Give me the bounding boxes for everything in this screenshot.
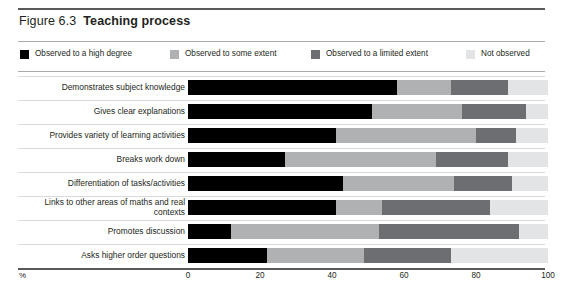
bar-segment (382, 200, 490, 215)
bar-segment (512, 176, 548, 191)
bar-segment (336, 200, 383, 215)
bar-segment (285, 152, 436, 167)
legend-label: Not observed (481, 49, 530, 59)
bar-segment (188, 80, 397, 95)
legend-item-2[interactable]: Observed to a limited extent (311, 49, 428, 59)
bar-segment (526, 104, 548, 119)
legend-item-3[interactable]: Not observed (466, 49, 530, 59)
chart-row: Differentiation of tasks/activities (0, 172, 563, 196)
bar-segment (476, 128, 516, 143)
category-label: Asks higher order questions (22, 244, 188, 268)
axis-unit-label: % (19, 271, 26, 280)
stacked-bar (188, 224, 548, 239)
bar-segment (462, 104, 527, 119)
chart-row: Demonstrates subject knowledge (0, 76, 563, 100)
category-label: Promotes discussion (22, 220, 188, 244)
figure-number: Figure 6.3 (19, 14, 76, 28)
bar-segment (188, 152, 285, 167)
stacked-bar (188, 176, 548, 191)
x-axis-tick-label: 100 (541, 271, 555, 280)
stacked-bar (188, 200, 548, 215)
x-axis-tick-label: 0 (186, 271, 191, 280)
legend-label: Observed to a high degree (35, 49, 132, 59)
legend-bottom-divider (18, 71, 545, 72)
bar-segment (188, 200, 336, 215)
bar-segment (188, 248, 267, 263)
bar-segment (188, 104, 372, 119)
x-axis-tick-label: 80 (471, 271, 480, 280)
chart-row: Provides variety of learning activities (0, 124, 563, 148)
bar-segment (451, 80, 509, 95)
chart-legend: Observed to a high degreeObserved to som… (20, 49, 547, 65)
stacked-bar (188, 80, 548, 95)
bar-segment (343, 176, 455, 191)
page-title: Figure 6.3Teaching process (19, 14, 190, 28)
legend-swatch-icon (466, 50, 475, 59)
top-divider (18, 8, 545, 10)
category-label: Links to other areas of maths and real c… (22, 196, 188, 220)
category-label: Differentiation of tasks/activities (22, 172, 188, 196)
stacked-bar (188, 104, 548, 119)
figure-title: Teaching process (83, 14, 190, 28)
bar-segment (231, 224, 379, 239)
category-label: Gives clear explanations (22, 100, 188, 124)
x-axis-tick-label: 40 (327, 271, 336, 280)
legend-label: Observed to some extent (185, 49, 276, 59)
legend-swatch-icon (20, 50, 29, 59)
bar-segment (516, 128, 548, 143)
bar-segment (372, 104, 462, 119)
legend-swatch-icon (170, 50, 179, 59)
bar-segment (379, 224, 519, 239)
chart-row: Gives clear explanations (0, 100, 563, 124)
bar-segment (508, 80, 548, 95)
chart-row: Asks higher order questions (0, 244, 563, 268)
bar-segment (267, 248, 364, 263)
stacked-bar (188, 248, 548, 263)
bar-segment (188, 176, 343, 191)
bar-segment (436, 152, 508, 167)
stacked-bar (188, 152, 548, 167)
bar-segment (397, 80, 451, 95)
bar-segment (364, 248, 450, 263)
legend-item-1[interactable]: Observed to some extent (170, 49, 276, 59)
category-label: Provides variety of learning activities (22, 124, 188, 148)
bar-segment (188, 128, 336, 143)
chart-row: Promotes discussion (0, 220, 563, 244)
x-axis-line (18, 268, 545, 270)
bar-segment (451, 248, 548, 263)
category-label: Breaks work down (22, 148, 188, 172)
legend-swatch-icon (311, 50, 320, 59)
bar-segment (508, 152, 548, 167)
bar-segment (519, 224, 548, 239)
figure-panel: Figure 6.3Teaching process Observed to a… (0, 0, 563, 295)
category-label: Demonstrates subject knowledge (22, 76, 188, 100)
bar-segment (454, 176, 512, 191)
chart-rows: Demonstrates subject knowledgeGives clea… (0, 76, 563, 268)
chart-row: Links to other areas of maths and real c… (0, 196, 563, 220)
stacked-bar (188, 128, 548, 143)
chart-row: Breaks work down (0, 148, 563, 172)
bar-segment (188, 224, 231, 239)
bar-segment (336, 128, 476, 143)
legend-top-divider (18, 41, 545, 42)
legend-item-0[interactable]: Observed to a high degree (20, 49, 132, 59)
bar-segment (490, 200, 548, 215)
legend-label: Observed to a limited extent (326, 49, 428, 59)
x-axis-tick-label: 60 (399, 271, 408, 280)
x-axis-tick-label: 20 (255, 271, 264, 280)
